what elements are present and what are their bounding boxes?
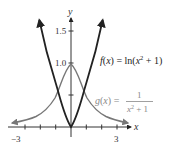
g-curve (12, 64, 128, 123)
x-axis-label: x (133, 121, 139, 132)
chart: y x 1.5 1.0 −3 3 f(x) = ln(x2 + 1) g(x) … (0, 0, 175, 148)
x-tick-label-neg3: −3 (11, 134, 21, 144)
svg-text:x2 + 1: x2 + 1 (126, 104, 148, 115)
g-annotation: g(x) = 1 x2 + 1 (95, 90, 153, 114)
svg-text:g(x) =: g(x) = (95, 95, 120, 107)
y-axis-label: y (67, 6, 73, 17)
x-tick-label-3: 3 (114, 134, 119, 144)
f-annotation: f(x) = ln(x2 + 1) (100, 54, 162, 67)
y-tick-label-1.5: 1.5 (55, 26, 67, 36)
svg-text:1: 1 (137, 90, 142, 100)
y-tick-label-1.0: 1.0 (55, 58, 67, 68)
